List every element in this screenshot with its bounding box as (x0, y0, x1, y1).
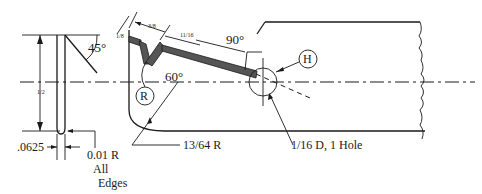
bottom-radius-label: 13/64 R (183, 138, 221, 152)
dim-ext-2 (129, 12, 137, 28)
edge-radius-label: 0.01 R (87, 148, 119, 162)
edge-radius-leader (68, 131, 95, 148)
dim-arrow-bottom (37, 122, 43, 131)
dim-11-16: 11/16 (180, 32, 193, 38)
edge-note-edges: Edges (98, 176, 128, 190)
arrow-icon (51, 145, 57, 149)
dim-ext-1 (117, 16, 129, 34)
projection-dash-line (256, 74, 310, 98)
edge-note-all: All (93, 162, 109, 176)
angle-60-line (132, 82, 178, 145)
hole-size-leader (270, 95, 293, 145)
dim-ext-3 (160, 25, 170, 40)
dim-arrow-top (37, 35, 43, 44)
dim-3-8: 3/8 (148, 23, 156, 29)
arrow-icon (67, 129, 73, 133)
hole-callout-label: H (303, 52, 312, 66)
dim-1-8: 1/8 (116, 33, 124, 39)
angle-60-label: 60° (165, 69, 183, 84)
slot-width-label: .0625 (17, 140, 44, 154)
arrow-icon (276, 67, 284, 72)
angle-45-label: 45° (88, 40, 106, 55)
angle-90-marker (245, 52, 262, 70)
radius-callout-label: R (140, 89, 148, 103)
body-top-slope (257, 22, 265, 34)
slot-outline (57, 35, 65, 134)
angle-90-label: 90° (226, 32, 244, 47)
left-vertical-dimension: 1/2 (37, 89, 45, 95)
break-line (419, 22, 424, 139)
technical-drawing: 1/2 45° .0625 0.01 R All Edges 1/8 3/8 1… (0, 0, 482, 194)
arrow-icon (135, 22, 141, 26)
arrow-icon (65, 145, 71, 149)
hole-size-label: 1/16 D, 1 Hole (291, 138, 362, 152)
radius-leader (142, 62, 146, 87)
